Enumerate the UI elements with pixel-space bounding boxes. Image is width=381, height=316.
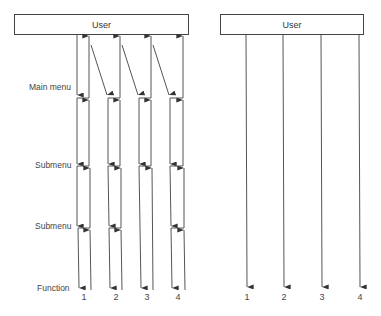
left-path-column-4 — [170, 36, 185, 290]
diagram-lines — [0, 0, 381, 316]
right-direct-paths — [246, 35, 360, 287]
left-path-column-2 — [108, 36, 138, 290]
left-path-column-1 — [77, 35, 107, 290]
left-path-column-3 — [139, 36, 169, 290]
